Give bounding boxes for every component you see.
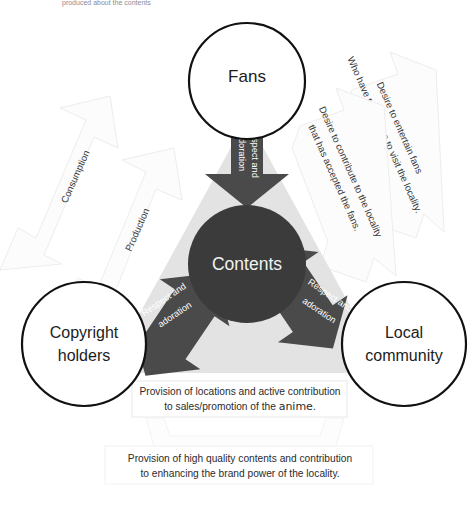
copyright-holders-circle[interactable] <box>22 282 146 406</box>
faint-arrow-consumption: Consumption <box>0 96 118 270</box>
caption-2-line-2: to enhancing the brand power of the loca… <box>140 468 339 479</box>
caption-2-line-1: Provision of high quality contents and c… <box>128 453 352 464</box>
copyright-holders-label-line2: holders <box>58 347 110 364</box>
caption-1-line-2: to sales/promotion of the anime. <box>164 400 316 413</box>
caption-link-arrow-1 <box>146 418 344 446</box>
local-community-circle[interactable] <box>342 282 466 406</box>
diagram-root: produced about the contents Consumption … <box>0 0 474 515</box>
caption-1-line-2-accent: anime <box>279 400 313 413</box>
caption-1-line-1: Provision of locations and active contri… <box>139 386 340 397</box>
local-community-label-line2: community <box>365 347 442 364</box>
relationship-diagram: produced about the contents Consumption … <box>0 0 474 515</box>
fans-label: Fans <box>228 67 266 86</box>
caption-1-line-2-post: . <box>313 401 316 412</box>
caption-1-line-2-pre: to sales/promotion of the <box>164 401 278 412</box>
cropped-header-text: produced about the contents <box>62 0 151 7</box>
node-local-community[interactable]: Local community <box>342 282 466 406</box>
center-circle-label: Contents <box>212 254 282 274</box>
copyright-holders-label-line1: Copyright <box>50 324 119 341</box>
node-fans[interactable]: Fans <box>189 23 305 139</box>
node-copyright-holders[interactable]: Copyright holders <box>22 282 146 406</box>
consumption-arrow-shape <box>0 96 118 270</box>
local-community-label-line1: Local <box>385 324 423 341</box>
